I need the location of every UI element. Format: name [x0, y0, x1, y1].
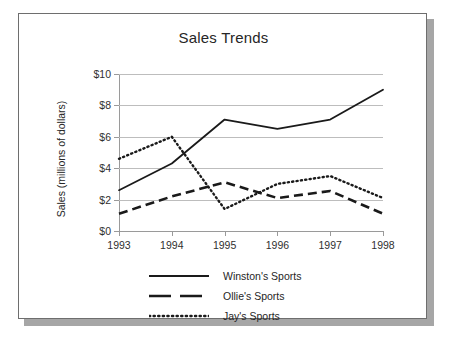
plot-area: $0$2$4$6$8$10 199319941995199619971998	[119, 74, 383, 231]
legend-item[interactable]: Jay's Sports	[149, 306, 399, 326]
legend-line-swatch-dashed-icon	[149, 290, 209, 302]
legend-item[interactable]: Winston's Sports	[149, 266, 399, 286]
y-axis-tick-label: $0	[99, 225, 111, 237]
x-axis-tick	[330, 231, 331, 236]
series-lines	[119, 74, 383, 231]
series-line	[119, 182, 383, 213]
x-axis-tick-label: 1993	[107, 239, 130, 251]
y-axis-tick-label: $10	[93, 68, 111, 80]
y-axis-tick-label: $8	[99, 99, 111, 111]
x-axis-tick	[172, 231, 173, 236]
y-axis-tick-label: $6	[99, 131, 111, 143]
x-axis-tick-label: 1998	[371, 239, 394, 251]
chart-legend: Winston's SportsOllie's SportsJay's Spor…	[149, 266, 399, 326]
y-axis-title: Sales (millions of dollars)	[55, 84, 67, 234]
x-axis-tick-label: 1995	[213, 239, 236, 251]
gridline	[119, 231, 383, 232]
y-axis-tick-label: $2	[99, 194, 111, 206]
legend-item-label: Winston's Sports	[223, 270, 301, 282]
x-axis-tick-label: 1997	[319, 239, 342, 251]
x-axis-tick	[383, 231, 384, 236]
x-axis-tick	[277, 231, 278, 236]
y-axis-tick-label: $4	[99, 162, 111, 174]
chart-card: Sales Trends Sales (millions of dollars)…	[18, 13, 427, 319]
x-axis-tick	[119, 231, 120, 236]
legend-item-label: Ollie's Sports	[223, 290, 285, 302]
x-axis-tick-label: 1994	[160, 239, 183, 251]
chart-title: Sales Trends	[19, 29, 428, 46]
x-axis-tick	[225, 231, 226, 236]
x-axis-tick-label: 1996	[266, 239, 289, 251]
legend-item[interactable]: Ollie's Sports	[149, 286, 399, 306]
series-line	[119, 137, 383, 209]
legend-item-label: Jay's Sports	[223, 310, 280, 322]
series-line	[119, 90, 383, 190]
legend-line-swatch-solid-icon	[149, 270, 209, 282]
legend-line-swatch-dotted-icon	[149, 310, 209, 322]
